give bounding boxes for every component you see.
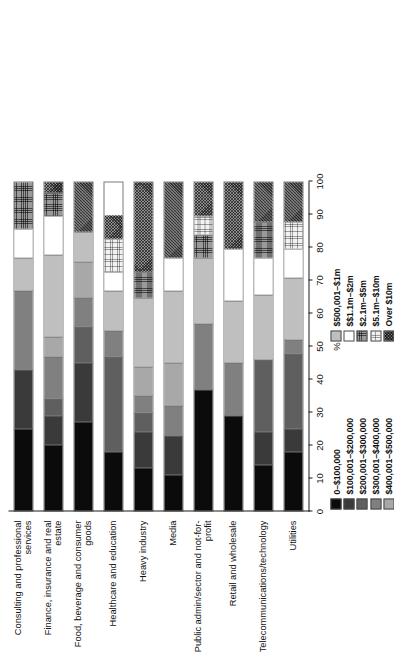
- x-tick-label: 100: [313, 173, 324, 189]
- stacked-bar: [73, 181, 92, 511]
- bar-segment: [194, 235, 211, 258]
- bar-segment: [44, 254, 61, 336]
- bar-row: [278, 181, 308, 511]
- swatch-white-icon: [343, 330, 354, 341]
- legend-item: $500,001–$1m: [330, 268, 341, 341]
- bar-segment: [104, 215, 121, 238]
- swatch-black-icon: [330, 498, 341, 509]
- legend-label: $300,001–$400,000: [370, 418, 380, 494]
- swatch-pale-grey-icon: [330, 330, 341, 341]
- bar-segment: [104, 271, 121, 291]
- stacked-bar: [253, 181, 272, 511]
- bar-segment: [74, 421, 91, 510]
- bar-segment: [74, 231, 91, 261]
- legend-label: $100,001–$200,000: [344, 418, 354, 494]
- bar-segment: [284, 353, 301, 428]
- bar-segment: [284, 182, 301, 221]
- legend-label: $400,001–$500,000: [383, 418, 393, 494]
- bar-segment: [44, 192, 61, 215]
- bar-segment: [134, 431, 151, 467]
- bar-segment: [164, 405, 181, 435]
- swatch-grid-dark-icon: [356, 330, 367, 341]
- category-label: Media: [158, 515, 188, 659]
- bar-segment: [134, 467, 151, 510]
- bar-row: [8, 181, 38, 511]
- legend-left: 0–$100,000$100,001–$200,000$200,001–$300…: [330, 418, 394, 509]
- category-label: Retail and wholesale: [218, 515, 248, 659]
- x-tick-label: 90: [313, 209, 324, 220]
- bar-segment: [224, 415, 241, 510]
- legend-item: $5.1m–$10m: [370, 268, 381, 341]
- legend-item: $400,001–$500,000: [383, 418, 394, 509]
- bar-segment: [164, 257, 181, 290]
- bar-segment: [44, 215, 61, 254]
- bar-row: [248, 181, 278, 511]
- legend-label: $200,001–$300,000: [357, 418, 367, 494]
- bar-segment: [254, 431, 271, 464]
- x-tick-label: 60: [313, 308, 324, 319]
- x-tick-label: 20: [313, 440, 324, 451]
- bar-segment: [284, 339, 301, 352]
- bar-segment: [44, 415, 61, 445]
- legend-label: 0–$100,000: [331, 449, 341, 494]
- legend-item: Over $10m: [383, 268, 394, 341]
- bar-segment: [134, 412, 151, 432]
- bar-segment: [74, 261, 91, 297]
- stacked-bar: [193, 181, 212, 511]
- bar-segment: [74, 326, 91, 362]
- bar-segment: [104, 451, 121, 510]
- x-tick-label: 30: [313, 407, 324, 418]
- stacked-bar: [223, 181, 242, 511]
- bar-row: [98, 181, 128, 511]
- bar-segment: [284, 277, 301, 339]
- x-tick-label: 80: [313, 242, 324, 253]
- legend-item: $$1.1m–$2m: [343, 268, 354, 341]
- bar-segment: [164, 182, 181, 257]
- stacked-bar: [283, 181, 302, 511]
- y-axis-line: [8, 510, 309, 511]
- bar-segment: [194, 257, 211, 323]
- bar-segment: [104, 330, 121, 356]
- swatch-dark-grey-icon: [343, 498, 354, 509]
- bar-segment: [14, 290, 31, 369]
- bar-segment: [104, 238, 121, 271]
- bar-segment: [134, 182, 151, 271]
- bar-segment: [14, 228, 31, 258]
- legend-item: $100,001–$200,000: [343, 418, 354, 509]
- bar-segment: [104, 356, 121, 451]
- swatch-crosshatch-icon: [383, 330, 394, 341]
- bar-segment: [14, 428, 31, 510]
- bar-segment: [134, 395, 151, 411]
- category-label: Food, beverage and consumer goods: [68, 515, 98, 659]
- bar-segment: [74, 297, 91, 327]
- category-label: Telecommunications/technology: [248, 515, 278, 659]
- bar-rows: [8, 181, 308, 511]
- category-label: Public admin/sector and not-for-profit: [188, 515, 218, 659]
- category-label: Consulting and professional services: [8, 515, 38, 659]
- bar-segment: [194, 182, 211, 215]
- x-tick-label: 10: [313, 473, 324, 484]
- legend-item: 0–$100,000: [330, 418, 341, 509]
- bar-row: [188, 181, 218, 511]
- category-label: Utilities: [278, 515, 308, 659]
- bar-segment: [224, 248, 241, 300]
- bar-segment: [284, 221, 301, 247]
- bar-segment: [254, 464, 271, 510]
- bar-segment: [254, 294, 271, 360]
- legend-item: $200,001–$300,000: [356, 418, 367, 509]
- bar-segment: [14, 369, 31, 428]
- bar-segment: [44, 399, 61, 415]
- stacked-bar: [133, 181, 152, 511]
- legend-label: $500,001–$1m: [331, 268, 341, 326]
- legend-label: $$1.1m–$2m: [344, 275, 354, 326]
- bar-segment: [284, 428, 301, 451]
- stacked-bar: [13, 181, 32, 511]
- stacked-bar: [163, 181, 182, 511]
- bar-segment: [44, 356, 61, 399]
- bar-segment: [254, 182, 271, 221]
- bar-segment: [254, 359, 271, 431]
- x-tick-label: 50: [313, 341, 324, 352]
